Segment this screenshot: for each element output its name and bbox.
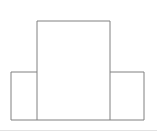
shape-figure: [0, 0, 157, 137]
figure-canvas: [0, 0, 157, 137]
stepped-plateau-outline: [11, 21, 144, 120]
